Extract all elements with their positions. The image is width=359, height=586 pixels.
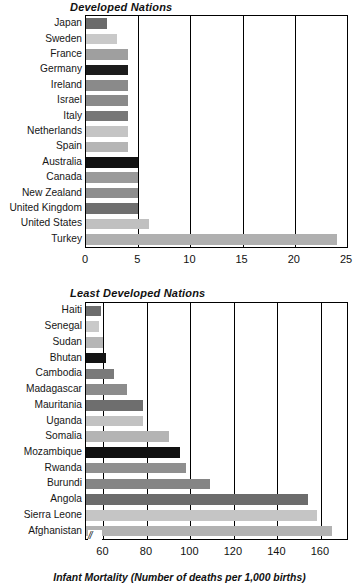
bar-row [86, 219, 347, 230]
bar [86, 479, 210, 490]
chart-developed-nations: JapanSwedenFranceGermanyIrelandIsraelIta… [0, 15, 359, 260]
category-label: Australia [0, 156, 82, 167]
bar-row [86, 111, 347, 122]
bar [86, 126, 128, 137]
bar [86, 400, 143, 411]
bar-row [86, 353, 347, 364]
bar [86, 306, 101, 317]
bar-row [86, 203, 347, 214]
category-label: Senegal [0, 320, 82, 331]
category-label: United Kingdom [0, 202, 82, 213]
category-label: Somalia [0, 430, 82, 441]
bar [86, 49, 128, 60]
x-tick-label: 0 [82, 253, 88, 265]
bar [86, 353, 106, 364]
bar [86, 18, 107, 29]
category-label: Sweden [0, 33, 82, 44]
x-tick-label: 120 [224, 545, 242, 557]
bar-row [86, 126, 347, 137]
infant-mortality-figure: Developed Nations JapanSwedenFranceGerma… [0, 0, 359, 586]
x-tick-label: 100 [180, 545, 198, 557]
bar-row [86, 463, 347, 474]
bar-row [86, 49, 347, 60]
category-label: Afghanistan [0, 525, 82, 536]
category-label: Bhutan [0, 352, 82, 363]
category-label: Cambodia [0, 367, 82, 378]
bar-row [86, 447, 347, 458]
bar [86, 384, 127, 395]
category-label: Spain [0, 140, 82, 151]
category-label: Rwanda [0, 462, 82, 473]
bar [86, 494, 308, 505]
bar [86, 510, 317, 521]
x-tick-label: 140 [267, 545, 285, 557]
bar-row [86, 431, 347, 442]
bar [86, 172, 138, 183]
category-label: Ireland [0, 79, 82, 90]
category-label: Uganda [0, 415, 82, 426]
x-axis-caption: Infant Mortality (Number of deaths per 1… [0, 572, 359, 583]
bar [86, 95, 128, 106]
bar [86, 369, 114, 380]
category-label: Italy [0, 110, 82, 121]
bar [86, 142, 128, 153]
plot-area-developed [85, 15, 348, 248]
category-label: Angola [0, 493, 82, 504]
axis-break-icon: // [88, 530, 102, 541]
bar [86, 447, 180, 458]
x-tick-label: 5 [134, 253, 140, 265]
bar [86, 463, 186, 474]
category-label: Sierra Leone [0, 509, 82, 520]
bar-row [86, 188, 347, 199]
bars-least-developed [86, 303, 347, 539]
category-label: Mauritania [0, 399, 82, 410]
category-label: Japan [0, 17, 82, 28]
bars-developed [86, 16, 347, 247]
category-label: Germany [0, 63, 82, 74]
bar [86, 337, 103, 348]
bar-row [86, 142, 347, 153]
category-label: Netherlands [0, 125, 82, 136]
bar [86, 34, 117, 45]
bar-row [86, 416, 347, 427]
category-label: Haiti [0, 304, 82, 315]
bar-row [86, 384, 347, 395]
bar-row [86, 306, 347, 317]
bar-row [86, 526, 347, 537]
bar-row [86, 369, 347, 380]
category-label: United States [0, 217, 82, 228]
bar [86, 80, 128, 91]
category-label: Turkey [0, 233, 82, 244]
bar-row [86, 172, 347, 183]
bar-row [86, 80, 347, 91]
chart-least-developed-nations: HaitiSenegalSudanBhutanCambodiaMadagasca… [0, 302, 359, 557]
bar [86, 526, 332, 537]
x-tick-label: 160 [311, 545, 329, 557]
bar-row [86, 494, 347, 505]
category-label: France [0, 48, 82, 59]
bar [86, 188, 138, 199]
category-label: Canada [0, 171, 82, 182]
category-label: Madagascar [0, 383, 82, 394]
category-label: New Zealand [0, 187, 82, 198]
bar-row [86, 234, 347, 245]
category-label: Burundi [0, 477, 82, 488]
bar-row [86, 18, 347, 29]
bar-row [86, 157, 347, 168]
plot-area-least-developed [85, 302, 348, 540]
bar [86, 219, 149, 230]
bar [86, 65, 128, 76]
bar [86, 321, 99, 332]
chart-title-least-developed-nations: Least Developed Nations [70, 287, 205, 299]
category-label: Sudan [0, 336, 82, 347]
x-tick-label: 15 [235, 253, 247, 265]
x-tick-label: 25 [340, 253, 352, 265]
x-tick-label: 80 [140, 545, 152, 557]
bar-row [86, 65, 347, 76]
x-tick-label: 10 [183, 253, 195, 265]
chart-title-developed-nations: Developed Nations [70, 1, 172, 13]
bar [86, 234, 337, 245]
bar [86, 431, 169, 442]
bar [86, 203, 138, 214]
category-label: Mozambique [0, 446, 82, 457]
